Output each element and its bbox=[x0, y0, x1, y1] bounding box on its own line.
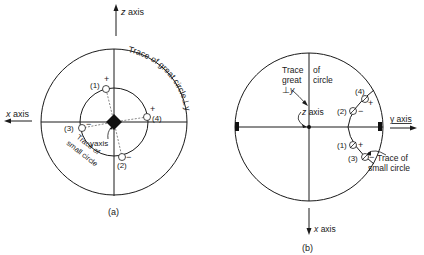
z-axis-pole-dot-b bbox=[307, 125, 311, 129]
svg-text:of: of bbox=[313, 65, 321, 75]
svg-text:circle: circle bbox=[313, 75, 333, 85]
y-axis-pole-diamond bbox=[106, 114, 122, 130]
pole-marker-3-a bbox=[79, 125, 86, 132]
figure-a bbox=[4, 4, 187, 196]
y-axis-arrowhead-b bbox=[410, 126, 417, 131]
svg-text:−: − bbox=[358, 106, 363, 116]
svg-text:small circle: small circle bbox=[368, 163, 410, 173]
x-axis-arrowhead-b bbox=[307, 228, 312, 235]
pole-marker-1-a bbox=[103, 86, 110, 93]
svg-text:(a): (a) bbox=[108, 207, 119, 217]
svg-text:(1): (1) bbox=[337, 141, 347, 150]
pole-marker-2-a bbox=[119, 154, 126, 161]
svg-text:+: + bbox=[368, 98, 373, 108]
svg-text:(3): (3) bbox=[348, 154, 358, 163]
svg-text:great: great bbox=[282, 75, 302, 85]
svg-text:(4): (4) bbox=[152, 114, 162, 123]
y-axis-pointer-a bbox=[108, 128, 111, 139]
svg-text:−: − bbox=[369, 152, 374, 162]
svg-text:(b): (b) bbox=[302, 243, 313, 253]
svg-text:+: + bbox=[150, 104, 155, 114]
svg-text:Trace: Trace bbox=[282, 65, 304, 75]
svg-text:+: + bbox=[358, 140, 363, 150]
svg-text:(2): (2) bbox=[337, 107, 347, 116]
stereonet-figure: z axis x axis Trace of great circle⊥y (1… bbox=[0, 0, 424, 255]
figure-a-labels: z axis x axis Trace of great circle⊥y (1… bbox=[5, 7, 193, 217]
figure-b-labels: Trace of great circle ⊥y z axis (2) − (4… bbox=[282, 65, 412, 253]
pole-marker-4-a bbox=[144, 114, 151, 121]
svg-text:Trace of: Trace of bbox=[377, 153, 409, 163]
svg-text:⊥y: ⊥y bbox=[282, 85, 295, 95]
y-pole-marker-left-b bbox=[235, 122, 239, 131]
svg-text:x axis: x axis bbox=[5, 109, 30, 119]
svg-text:(4): (4) bbox=[355, 87, 365, 96]
svg-text:x axis: x axis bbox=[313, 224, 336, 234]
svg-text:(2): (2) bbox=[117, 161, 127, 170]
svg-text:+: + bbox=[104, 74, 109, 84]
great-circle-label-a: Trace of great circle⊥y bbox=[127, 44, 193, 112]
svg-text:−: − bbox=[86, 119, 91, 129]
x-axis-arrowhead-a bbox=[4, 119, 11, 124]
svg-text:y axis: y axis bbox=[390, 114, 412, 124]
svg-text:(1): (1) bbox=[90, 81, 100, 90]
y-pole-marker-right-b bbox=[378, 122, 382, 131]
svg-text:z axis: z axis bbox=[120, 7, 145, 17]
svg-text:−: − bbox=[126, 152, 131, 162]
svg-text:(3): (3) bbox=[64, 124, 74, 133]
svg-text:z axis: z axis bbox=[301, 107, 324, 117]
z-axis-arrowhead-a bbox=[114, 4, 119, 11]
